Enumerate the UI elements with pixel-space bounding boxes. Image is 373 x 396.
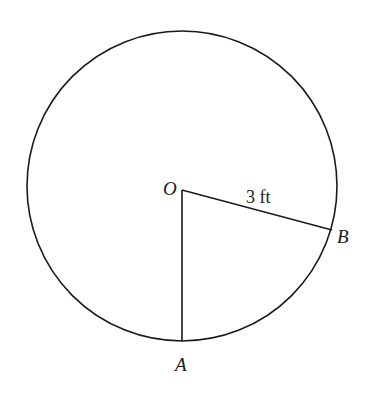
point-a-label: A bbox=[173, 354, 187, 375]
radius-label: 3 ft bbox=[246, 187, 271, 207]
point-b-label: B bbox=[337, 226, 349, 247]
center-label: O bbox=[163, 178, 177, 199]
circle-diagram: O 3 ft B A bbox=[0, 0, 373, 396]
